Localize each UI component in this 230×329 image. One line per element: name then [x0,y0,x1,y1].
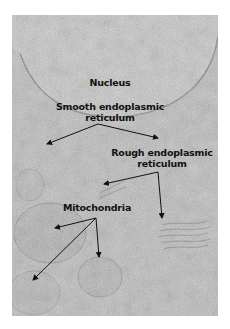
label-line: Smooth endoplasmic [56,101,164,112]
arrow-mitochondria [96,218,99,257]
label-mitochondria: Mitochondria [63,202,131,213]
label-line: Rough endoplasmic [111,147,213,158]
label-line: reticulum [56,112,164,123]
arrow-rough-er [104,172,158,184]
arrow-mitochondria [55,218,96,228]
label-nucleus: Nucleus [89,77,130,88]
label-line: Nucleus [89,77,130,88]
label-line: reticulum [111,158,213,169]
arrow-smooth-er [47,124,98,144]
arrow-smooth-er [98,124,158,138]
label-line: Mitochondria [63,202,131,213]
label-smooth-er: Smooth endoplasmicreticulum [56,101,164,123]
label-rough-er: Rough endoplasmicreticulum [111,147,213,169]
arrow-rough-er [158,172,162,218]
arrow-mitochondria [33,218,96,280]
